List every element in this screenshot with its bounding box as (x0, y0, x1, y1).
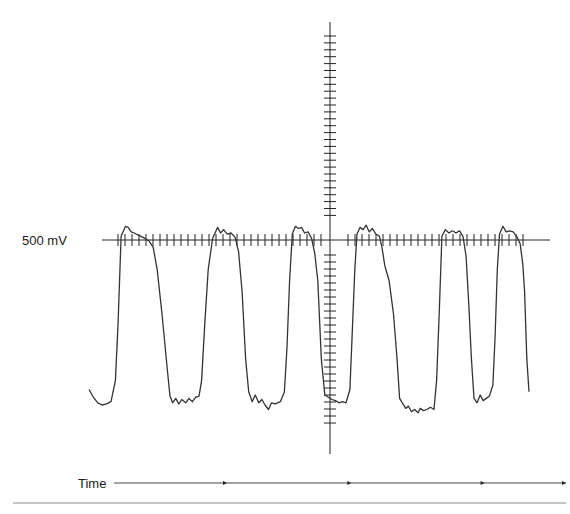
time-arrow-marker (347, 481, 351, 485)
reference-level-label: 500 mV (22, 233, 67, 248)
time-arrow-marker (223, 481, 227, 485)
time-arrow-marker (562, 481, 566, 485)
time-axis (114, 481, 566, 485)
time-arrow-marker (481, 481, 485, 485)
waveform-trace (89, 225, 529, 413)
oscilloscope-figure: 500 mV Time (0, 0, 570, 514)
time-axis-label: Time (78, 476, 106, 491)
